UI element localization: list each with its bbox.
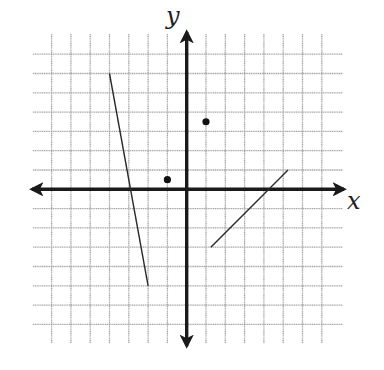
axes: [32, 32, 344, 346]
point-b: [202, 118, 209, 125]
x-axis-label: x: [347, 187, 361, 215]
point-a: [164, 176, 171, 183]
line-segments: [110, 74, 289, 286]
y-axis-label: y: [165, 2, 180, 30]
coordinate-plane: x y: [0, 0, 384, 370]
